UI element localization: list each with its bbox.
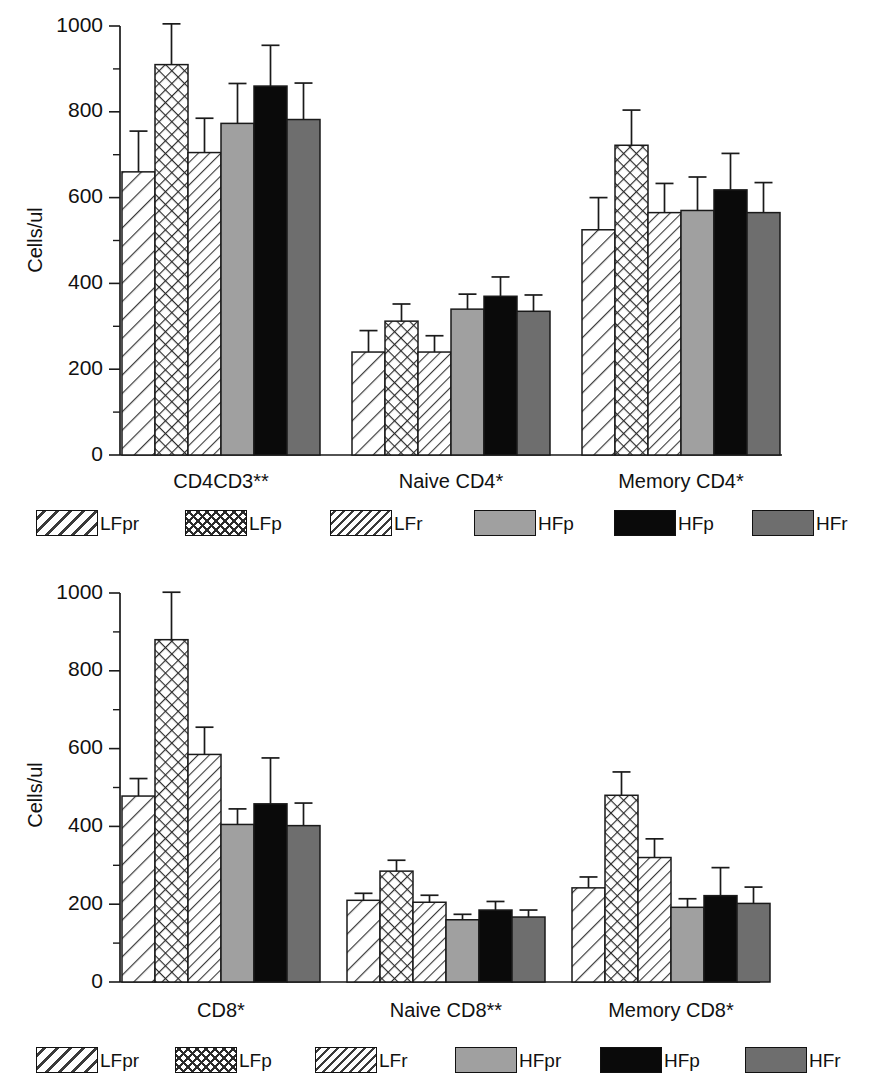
bar (714, 190, 747, 455)
y-tick-label: 800 (68, 98, 103, 121)
y-axis-title: Cells/ul (24, 762, 46, 828)
cd8-legend: LFprLFpLFrHFprHFpHFr (0, 1037, 891, 1083)
legend-item[interactable]: LFpr (36, 500, 139, 546)
legend-item[interactable]: LFr (330, 500, 423, 546)
cd4-figure: 02004006008001000Cells/ulCD4CD3**Naive C… (0, 0, 891, 545)
legend-item[interactable]: LFr (315, 1037, 408, 1083)
legend-label: LFp (249, 514, 282, 533)
cd8-figure: 02004006008001000Cells/ulCD8*Naive CD8**… (0, 545, 891, 1085)
legend-swatch (745, 1047, 807, 1073)
y-tick-label: 200 (68, 356, 103, 379)
bar (747, 213, 780, 455)
legend-item[interactable]: HFr (752, 500, 848, 546)
error-bar (590, 198, 608, 230)
error-bar (454, 914, 472, 919)
legend-swatch (36, 1047, 98, 1073)
error-bar (679, 899, 697, 908)
error-bar (656, 183, 674, 212)
bar (638, 858, 671, 982)
legend-item[interactable]: LFp (175, 1037, 272, 1083)
y-tick-label: 600 (68, 184, 103, 207)
error-bar (426, 336, 444, 352)
bar (155, 65, 188, 455)
error-bar (459, 294, 477, 309)
bar (254, 804, 287, 982)
legend-label: LFp (239, 1051, 272, 1070)
error-bar (492, 277, 510, 296)
bar (221, 123, 254, 455)
cd4-plot-panel: 02004006008001000Cells/ulCD4CD3**Naive C… (0, 0, 891, 500)
error-bar (196, 727, 214, 754)
legend-label: LFpr (100, 1051, 139, 1070)
legend-swatch (600, 1047, 662, 1073)
x-category-label: CD4CD3** (173, 470, 269, 492)
legend-swatch (330, 510, 392, 536)
legend-item[interactable]: LFp (185, 500, 282, 546)
y-tick-label: 400 (68, 270, 103, 293)
error-bar (388, 860, 406, 871)
bar (413, 902, 446, 982)
legend-item[interactable]: HFp (600, 1037, 700, 1083)
error-bar (580, 877, 598, 888)
error-bar (722, 153, 740, 189)
y-tick-label: 0 (91, 442, 103, 465)
x-category-label: Memory CD8* (608, 999, 734, 1021)
y-tick-label: 200 (68, 891, 103, 914)
legend-label: HFp (538, 514, 574, 533)
y-tick-label: 600 (68, 735, 103, 758)
error-bar (525, 295, 543, 311)
bar (648, 213, 681, 455)
bar (122, 796, 155, 982)
y-tick-label: 1000 (56, 580, 103, 603)
legend-label: LFpr (100, 514, 139, 533)
bar (347, 900, 380, 982)
bar (287, 120, 320, 455)
error-bar (130, 779, 148, 797)
legend-item[interactable]: HFp (474, 500, 574, 546)
legend-item[interactable]: HFpr (455, 1037, 561, 1083)
cd4-legend: LFprLFpLFrHFpHFpHFr (0, 500, 891, 546)
legend-item[interactable]: HFp (614, 500, 714, 546)
bar (385, 321, 418, 455)
bar (352, 352, 385, 455)
legend-label: HFr (816, 514, 848, 533)
bar (572, 888, 605, 982)
bar (484, 296, 517, 455)
bar (605, 795, 638, 982)
bar (517, 311, 550, 455)
error-bar (163, 592, 181, 639)
error-bar (229, 83, 247, 123)
legend-swatch (36, 510, 98, 536)
x-category-label: CD8* (197, 999, 245, 1021)
legend-swatch (614, 510, 676, 536)
error-bar (295, 803, 313, 826)
error-bar (196, 118, 214, 152)
bar (671, 907, 704, 982)
cd4-bar-chart: 02004006008001000Cells/ulCD4CD3**Naive C… (0, 0, 891, 500)
error-bar (360, 331, 378, 352)
cd8-bar-chart: 02004006008001000Cells/ulCD8*Naive CD8**… (0, 545, 891, 1037)
x-category-label: Naive CD8** (390, 999, 502, 1021)
bar (418, 352, 451, 455)
y-tick-label: 800 (68, 657, 103, 680)
legend-label: HFp (664, 1051, 700, 1070)
legend-item[interactable]: HFr (745, 1037, 841, 1083)
legend-swatch (315, 1047, 377, 1073)
x-category-label: Memory CD4* (618, 470, 744, 492)
error-bar (262, 45, 280, 86)
bar (704, 896, 737, 982)
bar (122, 172, 155, 455)
bar (254, 86, 287, 455)
x-category-label: Naive CD4* (399, 470, 504, 492)
error-bar (393, 304, 411, 321)
legend-label: HFr (809, 1051, 841, 1070)
error-bar (295, 83, 313, 119)
error-bar (745, 887, 763, 903)
bar (737, 903, 770, 982)
legend-item[interactable]: LFpr (36, 1037, 139, 1083)
bar (155, 640, 188, 982)
error-bar (520, 910, 538, 917)
bar (380, 871, 413, 982)
bar (582, 230, 615, 455)
bar (451, 309, 484, 455)
